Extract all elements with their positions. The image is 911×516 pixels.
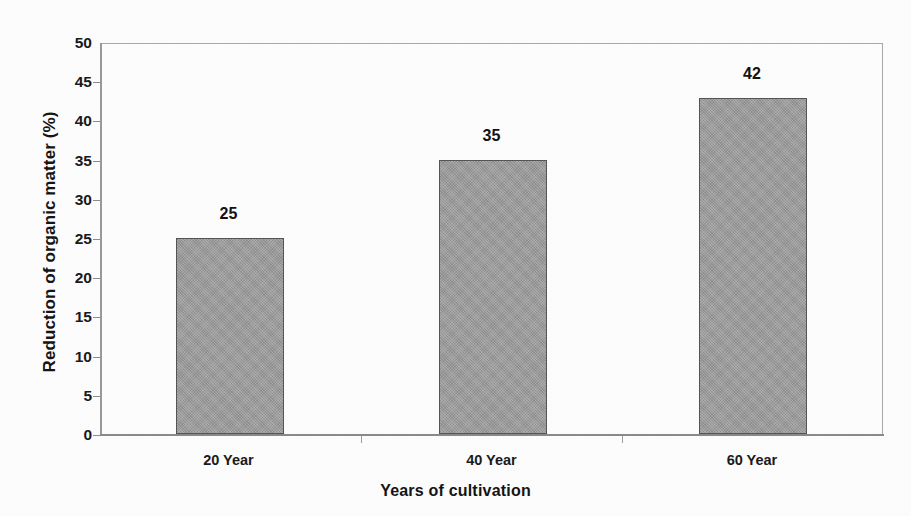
y-tick-label: 0 (52, 427, 92, 443)
y-tick-mark (93, 239, 100, 240)
y-axis-tick-labels: 05101520253035404550 (52, 0, 92, 516)
x-axis-title: Years of cultivation (0, 482, 911, 500)
y-tick-mark (93, 161, 100, 162)
x-tick-label: 40 Year (422, 452, 562, 468)
y-tick-mark (93, 396, 100, 397)
bar (439, 160, 547, 434)
bar-value-label: 25 (189, 205, 269, 223)
y-tick-label: 10 (52, 349, 92, 365)
y-tick-mark (93, 121, 100, 122)
y-tick-mark (93, 317, 100, 318)
y-tick-label: 40 (52, 113, 92, 129)
bar-value-label: 35 (452, 127, 532, 145)
y-tick-label: 20 (52, 270, 92, 286)
y-tick-mark (93, 82, 100, 83)
x-tick-label: 60 Year (682, 452, 822, 468)
y-tick-mark (93, 278, 100, 279)
y-axis-line (100, 43, 102, 436)
y-tick-mark (93, 435, 100, 436)
y-tick-label: 30 (52, 192, 92, 208)
bar-value-label: 42 (712, 65, 792, 83)
y-tick-mark (93, 200, 100, 201)
bar (699, 98, 807, 434)
x-axis-line (100, 434, 884, 436)
y-tick-label: 50 (52, 35, 92, 51)
y-tick-label: 5 (52, 388, 92, 404)
x-tick-label: 20 Year (159, 452, 299, 468)
y-tick-mark (93, 357, 100, 358)
x-tick-mark (622, 436, 623, 443)
y-tick-label: 45 (52, 74, 92, 90)
x-tick-mark (361, 436, 362, 443)
bar-chart-figure: Reduction of organic matter (%) 05101520… (0, 0, 911, 516)
y-tick-label: 15 (52, 309, 92, 325)
y-tick-label: 25 (52, 231, 92, 247)
bar (176, 238, 284, 434)
y-tick-label: 35 (52, 153, 92, 169)
plot-area (100, 43, 883, 435)
